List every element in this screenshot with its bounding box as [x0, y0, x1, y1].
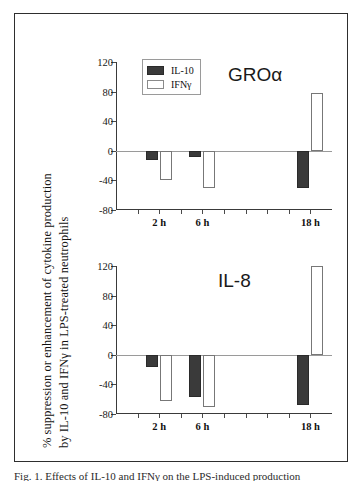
x-axis-tick — [202, 210, 203, 214]
x-axis-tick — [310, 414, 311, 418]
x-axis-tick-label: 2 h — [152, 421, 166, 432]
bar-ifn-18h — [311, 93, 323, 151]
y-axis-line — [116, 266, 117, 414]
legend-item-ifng: IFNγ — [147, 77, 194, 91]
y-axis-tick-label: -40 — [99, 175, 113, 186]
bar-il10-18h — [297, 355, 309, 405]
y-axis-tick-label: -40 — [99, 379, 113, 390]
bar-il10-2h — [146, 151, 158, 161]
x-axis-tick — [224, 210, 225, 214]
x-axis-tick — [246, 414, 247, 418]
x-axis-tick — [159, 210, 160, 214]
legend-item-il10: IL-10 — [147, 63, 194, 77]
legend-swatch-icon-il10 — [147, 66, 164, 75]
x-axis-tick-label: 2 h — [152, 217, 166, 228]
y-axis-label-line-2: by IL-10 and IFNγ in LPS-treated neutrop… — [57, 217, 72, 449]
x-axis-tick — [181, 414, 182, 418]
legend-label-il10: IL-10 — [171, 65, 194, 76]
x-axis-tick-label: 18 h — [301, 421, 320, 432]
x-axis-tick-label: 6 h — [196, 421, 210, 432]
bar-il10-2h — [146, 355, 158, 368]
x-axis-tick — [138, 210, 139, 214]
x-axis-tick — [202, 414, 203, 418]
y-axis-line — [116, 62, 117, 210]
bar-ifn-2h — [160, 151, 172, 181]
x-axis-tick — [310, 210, 311, 214]
x-axis-tick-label: 18 h — [301, 217, 320, 228]
y-axis-tick-label: 40 — [103, 320, 114, 331]
x-axis-tick — [159, 414, 160, 418]
figure-caption: Fig. 1. Effects of IL-10 and IFNγ on the… — [14, 470, 348, 481]
y-axis-tick-label: 80 — [103, 290, 114, 301]
x-axis-tick — [138, 414, 139, 418]
x-axis-tick — [267, 414, 268, 418]
y-axis-tick-label: 0 — [108, 349, 113, 360]
figure-root: % suppression or enhancement of cytokine… — [0, 0, 363, 481]
x-axis-tick-label: 6 h — [196, 217, 210, 228]
x-axis-tick — [181, 210, 182, 214]
bar-il10-6h — [189, 151, 201, 157]
plot-area-il8: 12080400-40-802 h6 h18 h — [116, 266, 332, 414]
legend-label-ifng: IFNγ — [171, 79, 192, 90]
bar-ifn-2h — [160, 355, 172, 401]
legend-swatch-icon-ifng — [147, 80, 164, 89]
bar-il10-6h — [189, 355, 201, 397]
bar-il10-18h — [297, 151, 309, 188]
y-axis-tick-label: 120 — [97, 57, 113, 68]
x-axis-tick — [246, 210, 247, 214]
chart-panel-il8: IL-8 12080400-40-802 h6 h18 h — [100, 260, 340, 442]
x-axis-tick — [289, 414, 290, 418]
chart-panel-groalpha: GROα 12080400-40-802 h6 h18 h IL-10 IFNγ — [100, 56, 340, 236]
y-axis-label: % suppression or enhancement of cytokine… — [24, 20, 86, 450]
chart-legend: IL-10 IFNγ — [142, 59, 201, 95]
bar-ifn-6h — [203, 355, 215, 407]
bar-ifn-18h — [311, 266, 323, 355]
y-axis-tick-label: 40 — [103, 116, 114, 127]
y-axis-tick-label: -80 — [99, 409, 113, 420]
y-axis-tick-label: 0 — [108, 145, 113, 156]
y-axis-tick-label: 120 — [97, 261, 113, 272]
x-axis-tick — [267, 210, 268, 214]
bar-ifn-6h — [203, 151, 215, 188]
y-axis-tick-label: -80 — [99, 205, 113, 216]
y-axis-label-line-1: % suppression or enhancement of cytokine… — [40, 173, 55, 448]
y-axis-tick-label: 80 — [103, 86, 114, 97]
x-axis-tick — [224, 414, 225, 418]
x-axis-tick — [289, 210, 290, 214]
